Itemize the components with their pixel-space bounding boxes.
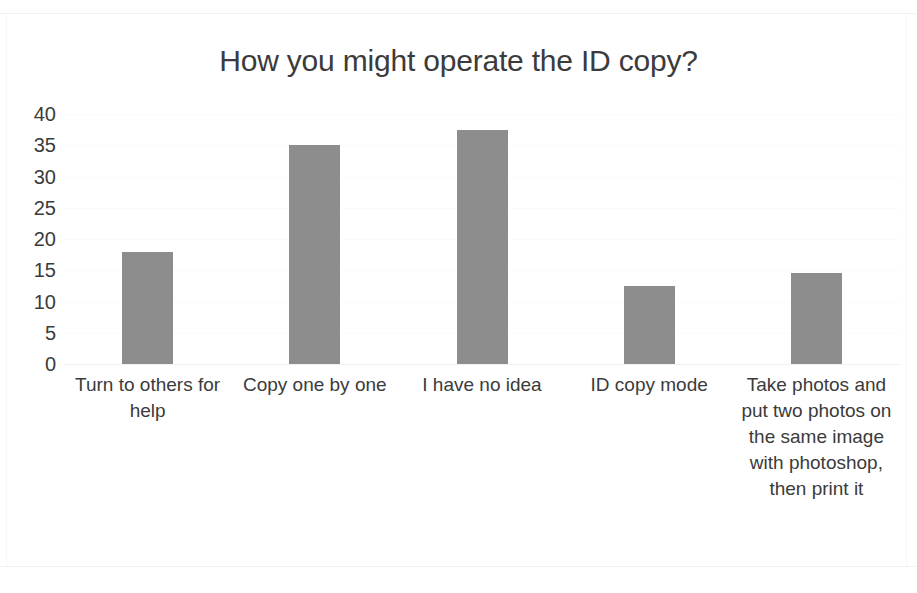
bar [624,286,675,364]
y-axis-tick-label: 40 [0,104,56,124]
bar [457,130,508,364]
bar [289,145,340,364]
bar-chart: How you might operate the ID copy? 40353… [0,0,917,593]
y-axis-tick-label: 20 [0,229,56,249]
x-axis-category-label: Turn to others for help [68,372,227,424]
gridline [64,114,900,115]
y-axis-tick-label: 25 [0,198,56,218]
y-axis-tick-label: 5 [0,323,56,343]
y-axis-tick-label: 0 [0,354,56,374]
x-axis-category-label: ID copy mode [570,372,729,398]
y-axis-tick-label: 15 [0,260,56,280]
scan-artifact-edge-right [906,13,907,566]
y-axis-tick-label: 10 [0,292,56,312]
y-axis-tick-label: 35 [0,135,56,155]
x-axis-baseline [64,364,900,365]
bar [122,252,173,365]
y-axis-tick-label: 30 [0,167,56,187]
chart-title: How you might operate the ID copy? [0,44,917,78]
x-axis-category-label: I have no idea [402,372,561,398]
bar [791,273,842,364]
x-axis: Turn to others for helpCopy one by oneI … [64,372,900,572]
y-axis: 4035302520151050 [0,114,56,364]
scan-artifact-line-top [0,13,917,14]
x-axis-category-label: Take photos and put two photos on the sa… [737,372,896,502]
plot-area [64,114,900,364]
x-axis-category-label: Copy one by one [235,372,394,398]
